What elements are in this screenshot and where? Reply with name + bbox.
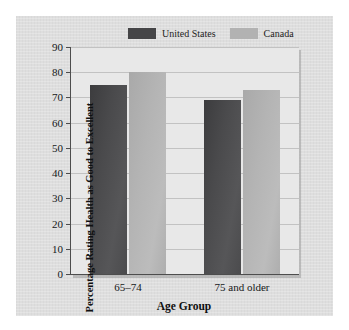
legend-entry-canada: Canada	[230, 28, 294, 39]
y-tick-label-40: 40	[52, 167, 63, 179]
y-tick-40	[66, 173, 71, 174]
legend-swatch-canada	[230, 28, 258, 39]
plot-inner: 010203040506070809065–7475 and older	[71, 47, 299, 274]
y-tick-60	[66, 123, 71, 124]
bar-canada-0	[129, 72, 166, 274]
y-tick-label-30: 30	[52, 192, 63, 204]
bar-canada-1	[243, 90, 280, 274]
x-tick-label-0: 65–74	[114, 281, 142, 293]
legend-entry-united-states: United States	[128, 28, 216, 39]
y-tick-50	[66, 148, 71, 149]
y-tick-10	[66, 249, 71, 250]
y-tick-label-70: 70	[52, 91, 63, 103]
y-tick-label-80: 80	[52, 66, 63, 78]
y-tick-label-90: 90	[52, 41, 63, 53]
y-tick-label-60: 60	[52, 117, 63, 129]
y-tick-90	[66, 47, 71, 48]
legend-label-canada: Canada	[264, 28, 294, 39]
plot-area: 010203040506070809065–7475 and older Per…	[70, 47, 299, 275]
chart-legend: United States Canada	[128, 28, 294, 39]
gridline-80	[71, 72, 299, 73]
x-tick-label-1: 75 and older	[215, 281, 270, 293]
y-tick-70	[66, 97, 71, 98]
bar-united-states-0	[90, 85, 127, 274]
y-tick-30	[66, 198, 71, 199]
y-tick-20	[66, 224, 71, 225]
bar-united-states-1	[204, 100, 241, 274]
legend-swatch-united-states	[128, 28, 156, 39]
y-tick-80	[66, 72, 71, 73]
y-tick-label-10: 10	[52, 243, 63, 255]
y-axis-title: Percentage Rating Health as Good to Exce…	[84, 113, 95, 313]
y-tick-0	[66, 274, 71, 275]
y-tick-label-20: 20	[52, 218, 63, 230]
legend-label-united-states: United States	[162, 28, 216, 39]
gridline-90	[71, 47, 299, 48]
x-axis-title: Age Group	[70, 300, 298, 312]
chart-figure: United States Canada 0102030405060708090…	[0, 0, 349, 330]
y-tick-label-50: 50	[52, 142, 63, 154]
y-tick-label-0: 0	[58, 268, 64, 280]
